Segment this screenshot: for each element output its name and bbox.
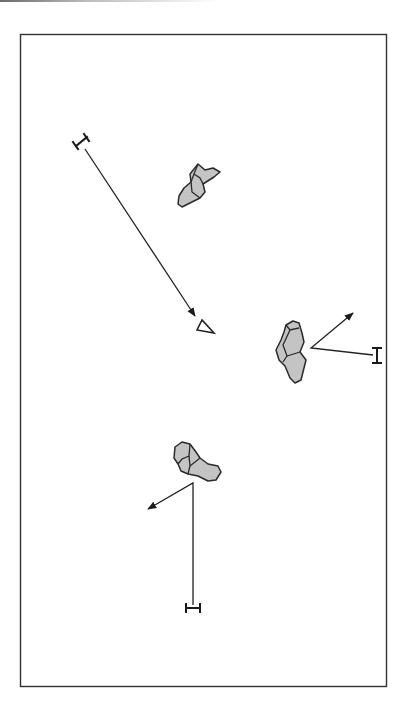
diagram-canvas	[0, 0, 406, 715]
field-frame	[21, 35, 387, 687]
